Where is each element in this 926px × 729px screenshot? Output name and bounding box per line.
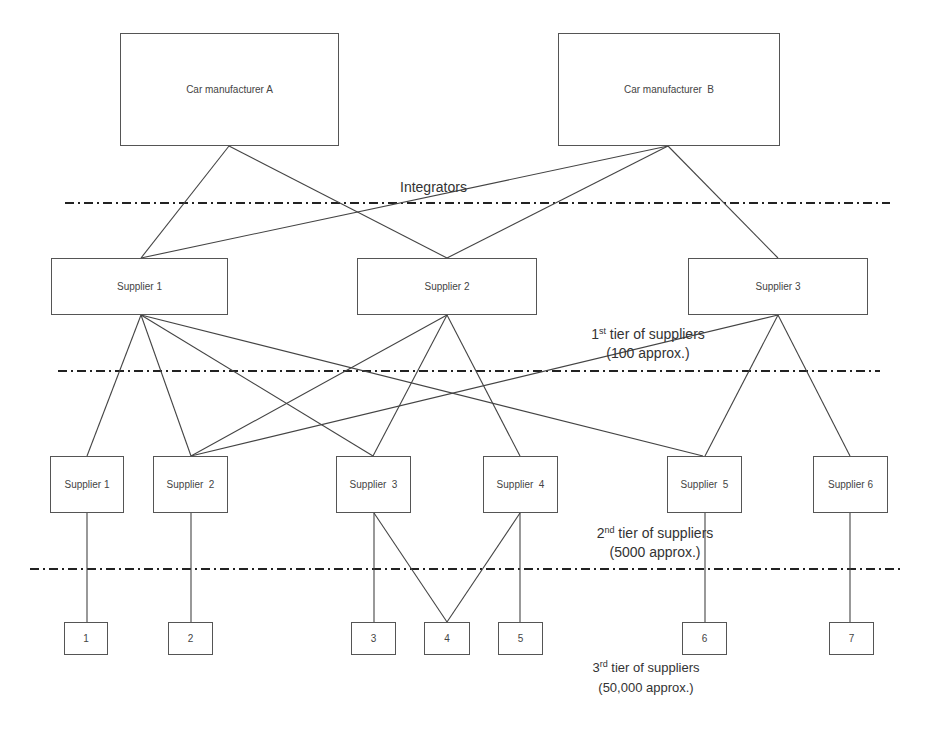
tier2-label-line2: (5000 approx.) [555, 543, 755, 562]
tier1-ordinal-suffix: st [599, 326, 606, 336]
manufacturer-box-B: Car manufacturer B [558, 33, 780, 146]
manufacturer-box-label: Car manufacturer A [186, 84, 273, 95]
tier3-supplier-box-t3n7: 7 [829, 622, 874, 655]
tier3-supplier-box-t3n3: 3 [351, 622, 396, 655]
connector-t1s1-t2s2 [141, 315, 191, 456]
connector-B-t1s2 [447, 146, 668, 258]
connector-t2s3-t3n4 [374, 513, 447, 622]
tier3-label-rest: tier of suppliers [608, 660, 700, 675]
tier2-supplier-box-label: Supplier 2 [167, 479, 215, 490]
tier3-supplier-box-t3n5: 5 [498, 622, 543, 655]
tier2-supplier-box-label: Supplier 3 [350, 479, 398, 490]
tier2-supplier-box-t2s1: Supplier 1 [50, 456, 124, 513]
tier3-supplier-box-t3n1: 1 [64, 622, 108, 655]
connector-t1s1-t2s3 [141, 315, 373, 456]
tier2-supplier-box-label: Supplier 1 [64, 479, 109, 490]
manufacturer-box-label: Car manufacturer B [624, 84, 714, 95]
tier3-supplier-box-label: 6 [702, 633, 708, 644]
tier1-label-rest: tier of suppliers [606, 326, 705, 342]
tier3-supplier-box-label: 4 [444, 633, 450, 644]
tier3-label-line2: (50,000 approx.) [546, 678, 746, 698]
tier1-supplier-box-t1s1: Supplier 1 [51, 258, 228, 315]
tier2-supplier-box-label: Supplier 5 [681, 479, 729, 490]
tier3-label-line1: 3rd tier of suppliers [546, 658, 746, 678]
connector-t1s2-t2s2 [191, 315, 447, 456]
integrators-label-text: Integrators [400, 179, 467, 195]
tier2-label-line1: 2nd tier of suppliers [555, 524, 755, 543]
tier2-supplier-box-label: Supplier 6 [828, 479, 873, 490]
tier1-supplier-box-label: Supplier 3 [755, 281, 800, 292]
tier1-supplier-box-label: Supplier 1 [117, 281, 162, 292]
tier1-ordinal: 1 [591, 326, 599, 342]
tier3-supplier-box-label: 1 [83, 633, 89, 644]
connector-t1s1-t2s1 [87, 315, 141, 456]
tier1-supplier-box-label: Supplier 2 [424, 281, 469, 292]
connector-t1s2-t2s3 [373, 315, 447, 456]
tier2-supplier-box-label: Supplier 4 [497, 479, 545, 490]
tier1-supplier-box-t1s2: Supplier 2 [357, 258, 537, 315]
connector-t2s4-t3n4 [447, 513, 520, 622]
tier3-supplier-box-label: 3 [371, 633, 377, 644]
tier3-supplier-box-label: 5 [518, 633, 524, 644]
tier2-supplier-box-t2s6: Supplier 6 [813, 456, 888, 513]
tier1-label-line1: 1st tier of suppliers [548, 325, 748, 344]
connector-B-t1s3 [668, 146, 778, 258]
tier3-supplier-box-t3n2: 2 [168, 622, 213, 655]
tier3-supplier-box-t3n4: 4 [424, 622, 470, 655]
tier3-ordinal: 3 [592, 660, 599, 675]
tier2-supplier-box-t2s4: Supplier 4 [483, 456, 558, 513]
tier3-ordinal-suffix: rd [600, 659, 608, 669]
tier2-label-rest: tier of suppliers [614, 525, 713, 541]
manufacturer-box-A: Car manufacturer A [120, 33, 339, 146]
tier2-label: 2nd tier of suppliers (5000 approx.) [555, 524, 755, 562]
tier2-supplier-box-t2s3: Supplier 3 [336, 456, 411, 513]
tier2-supplier-box-t2s2: Supplier 2 [153, 456, 228, 513]
tier1-label-line2: (100 approx.) [548, 344, 748, 363]
connector-t1s3-t2s6 [778, 315, 850, 456]
tier1-label: 1st tier of suppliers (100 approx.) [548, 325, 748, 363]
tier3-supplier-box-label: 7 [849, 633, 855, 644]
tier3-label: 3rd tier of suppliers (50,000 approx.) [546, 658, 746, 698]
tier1-supplier-box-t1s3: Supplier 3 [688, 258, 868, 315]
tier3-supplier-box-t3n6: 6 [682, 622, 727, 655]
tier3-supplier-box-label: 2 [188, 633, 194, 644]
tier2-ordinal-suffix: nd [604, 525, 614, 535]
integrators-label: Integrators [400, 178, 467, 197]
tier2-supplier-box-t2s5: Supplier 5 [667, 456, 742, 513]
